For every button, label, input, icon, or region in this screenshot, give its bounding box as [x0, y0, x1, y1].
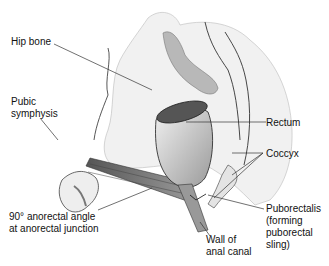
anal-canal [178, 184, 208, 232]
label-anorectal-angle: 90° anorectal angle at anorectal junctio… [9, 211, 99, 235]
label-rectum: Rectum [266, 117, 300, 129]
label-wall-of-anal-canal: Wall of anal canal [206, 234, 252, 258]
label-hip-bone: Hip bone [11, 36, 51, 48]
label-puborectalis: Puborectalis (forming puborectal sling) [266, 203, 321, 251]
label-coccyx: Coccyx [266, 148, 299, 160]
label-pubic-symphysis: Pubic symphysis [11, 96, 58, 120]
hip-contour [94, 48, 109, 140]
